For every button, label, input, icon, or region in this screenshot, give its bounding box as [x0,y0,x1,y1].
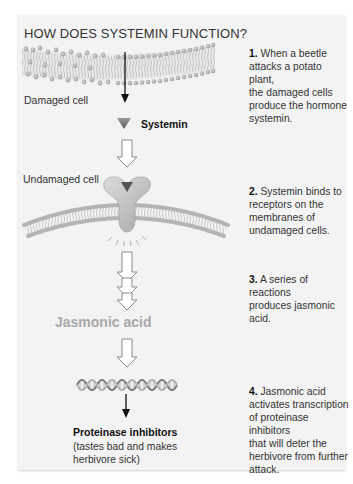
proteinase-note-line-1: (tastes bad and makes [73,440,177,453]
damaged-cell-label: Damaged cell [24,94,88,106]
step-1-line: systemin. [249,113,293,124]
step-4-line: activates transcription [249,399,349,410]
step-4-line: herbivore from further [249,451,348,462]
step-1-text: 1. When a beetle attacks a potato plant,… [249,47,349,125]
step-4-text: 4. Jasmonic acid activates transcription… [249,385,349,476]
step-1-line: When a beetle [260,48,326,59]
step-3-text: 3. A series of reactions produces jasmon… [249,273,349,325]
step-3-line: produces jasmonic [249,300,335,311]
transcription-arrow [122,394,130,418]
step-4-line: Jasmonic acid [260,386,325,397]
step-2-line: receptors on the [249,199,323,210]
systemin-label: Systemin [141,118,188,130]
proteinase-note-line-2: herbivore sick) [73,453,140,466]
step-4-line: attack. [249,464,279,475]
step-3-line: acid. [249,313,271,324]
dna-helix [77,380,177,390]
hollow-arrow-1 [117,140,137,167]
hollow-arrow-3 [117,339,137,367]
step-1-line: attacks a potato plant, [249,61,322,85]
systemin-icon [117,118,131,129]
damaged-cell-membrane [22,43,215,86]
proteinase-inhibitors-label: Proteinase inhibitors [73,426,177,438]
step-2-number: 2. [249,186,258,197]
step-4-line: that will deter the [249,438,327,449]
hollow-arrow-chain [117,252,137,310]
step-1-line: the damaged cells [249,87,333,98]
step-2-line: Systemin binds to [260,186,341,197]
undamaged-cell-label: Undamaged cell [23,173,99,185]
step-2-line: membranes of [249,212,315,223]
jasmonic-acid-label: Jasmonic acid [55,314,152,330]
step-3-line: A series of reactions [249,274,308,298]
step-4-line: of proteinase inhibitors [249,412,309,436]
step-3-number: 3. [249,274,258,285]
step-2-line: undamaged cells. [249,225,330,236]
step-1-line: produce the hormone [249,100,347,111]
step-1-number: 1. [249,48,258,59]
step-4-number: 4. [249,386,258,397]
step-2-text: 2. Systemin binds to receptors on the me… [249,185,349,237]
